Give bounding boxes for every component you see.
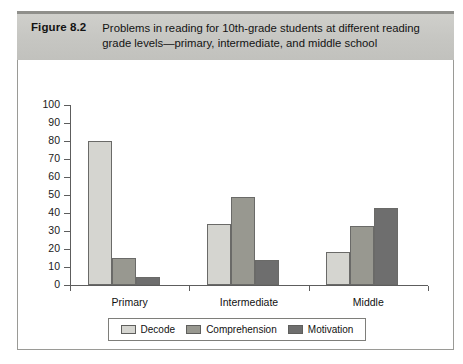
figure-container: Figure 8.2 Problems in reading for 10th-…	[0, 0, 463, 364]
y-axis-tick-label: 70	[48, 152, 60, 164]
y-axis-tick: 70	[64, 159, 71, 160]
y-axis-tick: 30	[64, 231, 71, 232]
bar	[326, 252, 350, 285]
y-axis-tick-label: 10	[48, 260, 60, 272]
figure-caption-text: Problems in reading for 10th-grade stude…	[102, 21, 446, 50]
y-axis-tick-label: 0	[54, 278, 60, 290]
x-axis-category-label: Primary	[70, 296, 190, 308]
y-axis-tick-label: 90	[48, 116, 60, 128]
y-axis-tick-label: 30	[48, 224, 60, 236]
legend-item[interactable]: Motivation	[288, 324, 354, 335]
y-axis-tick-label: 40	[48, 206, 60, 218]
y-axis-tick: 100	[64, 105, 71, 106]
bar	[374, 208, 398, 285]
legend-swatch-icon	[288, 325, 303, 334]
y-axis-tick: 80	[64, 141, 71, 142]
y-axis-tick: 50	[64, 195, 71, 196]
x-axis-tick	[70, 286, 71, 291]
bar	[350, 226, 374, 285]
bar	[255, 260, 279, 285]
x-axis-tick	[428, 286, 429, 291]
x-axis-category-label: Intermediate	[189, 296, 309, 308]
bar	[88, 141, 112, 285]
y-axis-tick: 40	[64, 213, 71, 214]
chart-legend: DecodeComprehensionMotivation	[108, 318, 366, 341]
legend-label: Comprehension	[206, 324, 277, 335]
y-axis-tick-label: 60	[48, 170, 60, 182]
figure-number-label: Figure 8.2	[31, 21, 86, 33]
legend-label: Motivation	[308, 324, 354, 335]
legend-swatch-icon	[186, 325, 201, 334]
y-axis-tick-label: 100	[42, 98, 60, 110]
y-axis-tick-label: 80	[48, 134, 60, 146]
y-axis-tick: 20	[64, 249, 71, 250]
bar	[231, 197, 255, 285]
figure-caption-band: Figure 8.2 Problems in reading for 10th-…	[17, 14, 454, 60]
bar	[136, 277, 160, 285]
chart-frame: 0102030405060708090100 PrimaryIntermedia…	[17, 60, 454, 350]
legend-label: Decode	[141, 324, 175, 335]
y-axis-tick: 10	[64, 267, 71, 268]
legend-item[interactable]: Decode	[121, 324, 175, 335]
y-axis-tick-label: 20	[48, 242, 60, 254]
y-axis-tick: 90	[64, 123, 71, 124]
x-axis-tick	[189, 286, 190, 291]
bar-chart: 0102030405060708090100 PrimaryIntermedia…	[18, 60, 455, 350]
x-axis-category-label: Middle	[308, 296, 428, 308]
legend-swatch-icon	[121, 325, 136, 334]
x-axis-tick	[309, 286, 310, 291]
bar	[112, 258, 136, 285]
y-axis-tick-label: 50	[48, 188, 60, 200]
legend-item[interactable]: Comprehension	[186, 324, 277, 335]
y-axis-tick: 60	[64, 177, 71, 178]
x-axis-line	[70, 285, 428, 286]
bar	[207, 224, 231, 285]
